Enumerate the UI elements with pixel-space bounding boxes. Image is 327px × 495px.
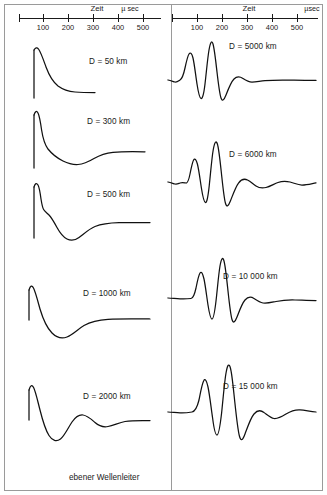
figure-root: 100 200 300 400 500 Zeit µ sec D = 50 km…: [0, 0, 327, 495]
panel-planar-waveguide: 100 200 300 400 500 Zeit µ sec D = 50 km…: [5, 0, 166, 495]
tick-label-500: 500: [137, 23, 149, 32]
axis-unit-microsec: µ sec: [121, 4, 139, 13]
trace-spherical-10000km: [166, 250, 322, 340]
axis-title-zeit: Zeit: [91, 4, 105, 13]
trace-label-planar-500km: D = 500 km: [87, 190, 130, 199]
trace-label-spherical-15000km: D = 15 000 km: [223, 382, 278, 391]
trace-planar-50km: [5, 46, 166, 100]
axis-unit-microsec: µsec: [304, 4, 320, 13]
trace-label-planar-300km: D = 300 km: [87, 117, 130, 126]
trace-label-planar-50km: D = 50 km: [89, 57, 127, 66]
tick-label-200: 200: [62, 23, 74, 32]
tick-label-100: 100: [37, 23, 49, 32]
trace-label-planar-1000km: D = 1000 km: [83, 289, 131, 298]
time-axis-right: 100 200 300 400 500 Zeit µsec: [166, 0, 322, 32]
time-axis-left: 100 200 300 400 500 Zeit µ sec: [5, 0, 166, 32]
trace-planar-2000km: [5, 376, 166, 454]
axis-title-zeit: Zeit: [243, 4, 257, 13]
tick-label-400: 400: [112, 23, 124, 32]
trace-label-spherical-10000km: D = 10 000 km: [223, 272, 278, 281]
trace-spherical-15000km: [166, 358, 322, 462]
tick-label-400: 400: [266, 23, 278, 32]
tick-label-200: 200: [216, 23, 228, 32]
trace-label-planar-2000km: D = 2000 km: [83, 392, 131, 401]
tick-label-500: 500: [291, 23, 303, 32]
tick-label-300: 300: [87, 23, 99, 32]
trace-planar-300km: [5, 108, 166, 174]
trace-label-spherical-5000km: D = 5000 km: [229, 42, 277, 51]
trace-spherical-6000km: [166, 130, 322, 226]
caption-planar-waveguide: ebener Wellenleiter: [69, 473, 139, 482]
panel-spherical-waveguide: 100 200 300 400 500 Zeit µsec D = 5000 k…: [166, 0, 322, 495]
tick-label-100: 100: [191, 23, 203, 32]
tick-label-300: 300: [241, 23, 253, 32]
trace-planar-500km: [5, 180, 166, 252]
trace-label-spherical-6000km: D = 6000 km: [229, 150, 277, 159]
